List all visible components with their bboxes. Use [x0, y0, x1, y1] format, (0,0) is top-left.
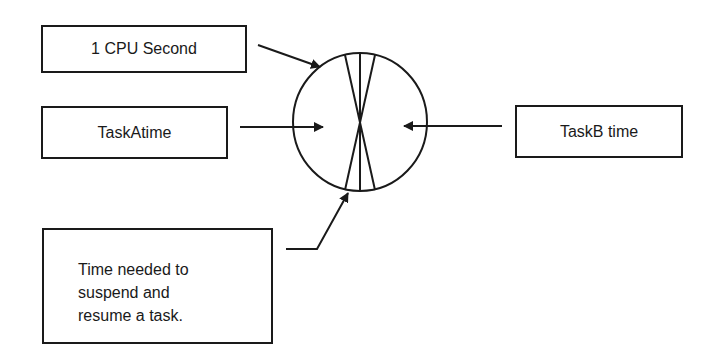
cpu-second-arrow	[258, 45, 320, 67]
context-switch-wedges	[345, 53, 375, 191]
task-a-box: TaskAtime	[41, 106, 228, 159]
switch-overhead-arrow	[286, 193, 348, 249]
diagram-canvas: 1 CPU Second TaskAtime TaskB time Time n…	[0, 0, 719, 357]
task-b-box: TaskB time	[515, 105, 683, 158]
task-b-label: TaskB time	[560, 123, 638, 141]
switch-overhead-line-2: suspend and	[78, 281, 189, 304]
switch-overhead-line-3: resume a task.	[78, 304, 189, 327]
switch-overhead-box: Time needed to suspend and resume a task…	[42, 228, 273, 344]
switch-overhead-line-1: Time needed to	[78, 258, 189, 281]
cpu-second-box: 1 CPU Second	[41, 25, 247, 73]
task-a-label: TaskAtime	[98, 124, 172, 142]
cpu-second-label: 1 CPU Second	[91, 40, 197, 58]
